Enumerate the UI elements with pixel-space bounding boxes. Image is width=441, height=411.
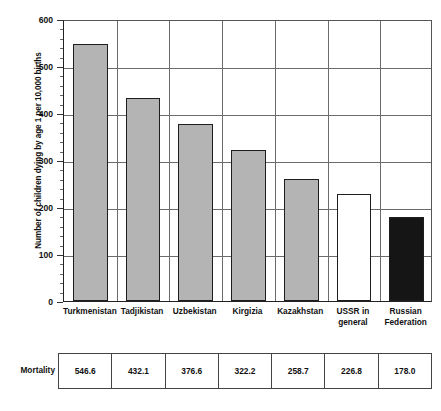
gridline-vertical xyxy=(328,21,329,301)
bar-russian-federation xyxy=(389,217,424,301)
mortality-table: 546.6432.1376.6322.2258.7226.8178.0 xyxy=(58,353,432,389)
gridline-vertical xyxy=(117,21,118,301)
gridline-horizontal xyxy=(64,68,431,69)
bar-tadjikistan xyxy=(126,98,161,301)
bar-turkmenistan xyxy=(73,44,108,301)
y-tick-major xyxy=(57,302,63,303)
gridline-vertical xyxy=(380,21,381,301)
mortality-cell-tadjikistan: 432.1 xyxy=(112,354,165,388)
bar-ussr-in-general xyxy=(337,194,372,301)
x-axis-label-uzbekistan: Uzbekistan xyxy=(168,306,221,317)
x-axis-labels: TurkmenistanTadjikistanUzbekistanKirgizi… xyxy=(63,306,432,340)
x-axis-label-line: Turkmenistan xyxy=(63,306,116,317)
y-axis-title: Number of children dying by age 1 per 10… xyxy=(34,21,43,281)
gridline-vertical xyxy=(222,21,223,301)
mortality-cell-russian-federation: 178.0 xyxy=(379,354,431,388)
x-axis-label-kirgizia: Kirgizia xyxy=(221,306,274,317)
mortality-cell-turkmenistan: 546.6 xyxy=(59,354,112,388)
mortality-cell-ussr-in-general: 226.8 xyxy=(325,354,378,388)
x-axis-label-line: Kirgizia xyxy=(221,306,274,317)
plot-area xyxy=(63,20,432,302)
bar-uzbekistan xyxy=(178,124,213,301)
mortality-cell-kirgizia: 322.2 xyxy=(219,354,272,388)
x-axis-label-line: USSR in xyxy=(327,306,380,317)
y-tick-label: 600 xyxy=(19,15,53,25)
chart-figure: Number of children dying by age 1 per 10… xyxy=(0,0,441,411)
x-axis-label-line: Federation xyxy=(379,317,432,328)
mortality-cell-kazakhstan: 258.7 xyxy=(272,354,325,388)
bar-kazakhstan xyxy=(284,179,319,301)
gridline-vertical xyxy=(169,21,170,301)
mortality-row-label: Mortality xyxy=(3,365,55,375)
y-tick-label: 300 xyxy=(19,156,53,166)
x-axis-label-turkmenistan: Turkmenistan xyxy=(63,306,116,317)
x-axis-label-line: Russian xyxy=(379,306,432,317)
x-axis-label-line: Uzbekistan xyxy=(168,306,221,317)
x-axis-label-russian-federation: RussianFederation xyxy=(379,306,432,327)
y-tick-label: 500 xyxy=(19,62,53,72)
y-tick-label: 200 xyxy=(19,203,53,213)
mortality-cell-uzbekistan: 376.6 xyxy=(166,354,219,388)
bar-kirgizia xyxy=(231,150,266,301)
x-axis-label-ussr-in-general: USSR ingeneral xyxy=(327,306,380,327)
x-axis-label-line: Kazakhstan xyxy=(274,306,327,317)
x-axis-label-line: Tadjikistan xyxy=(116,306,169,317)
y-tick-label: 0 xyxy=(19,297,53,307)
y-tick-label: 100 xyxy=(19,250,53,260)
gridline-vertical xyxy=(275,21,276,301)
x-axis-label-line: general xyxy=(327,317,380,328)
x-axis-label-tadjikistan: Tadjikistan xyxy=(116,306,169,317)
gridline-horizontal xyxy=(64,115,431,116)
y-tick-label: 400 xyxy=(19,109,53,119)
x-axis-label-kazakhstan: Kazakhstan xyxy=(274,306,327,317)
